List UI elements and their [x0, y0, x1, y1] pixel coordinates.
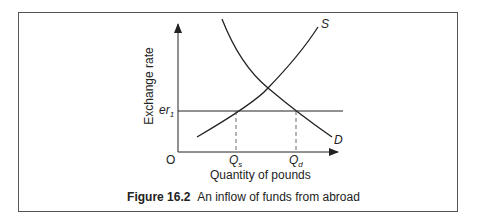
figure-number: Figure 16.2 [127, 190, 190, 204]
diagram-canvas [0, 0, 487, 222]
y-axis-label: Exchange rate [142, 47, 156, 124]
er1-label: er1 [159, 103, 174, 119]
supply-label: S [321, 17, 329, 31]
figure-caption: Figure 16.2 An inflow of funds from abro… [0, 190, 487, 204]
qd-label: Qd [289, 153, 303, 169]
demand-label: D [334, 133, 343, 147]
caption-text: An inflow of funds from abroad [197, 190, 360, 204]
x-axis-label: Quantity of pounds [210, 168, 311, 182]
qs-label: Qs [229, 153, 242, 169]
supply-curve [197, 27, 318, 137]
origin-label: O [166, 153, 175, 167]
